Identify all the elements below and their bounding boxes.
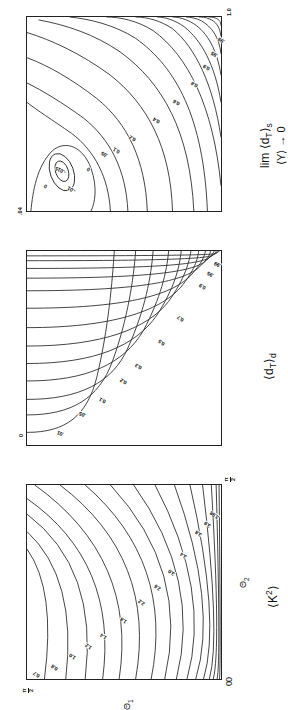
panel-dtau-d-contours (27, 251, 221, 445)
panel-k2-contours (27, 485, 221, 679)
panel-dtau-d-caption: ⟨dT⟩d (262, 353, 278, 380)
panel-dtau-s-caption-line2: ⟨Υ⟩ → 0 (275, 123, 288, 168)
panel-dtau-s-caption: lim ⟨dT⟩s ⟨Υ⟩ → 0 (258, 123, 288, 168)
panel-dtau-s-limit: -.01 -.015 0 0 .05 0.1 0.2 0.4 0.6 0.8 0… (26, 16, 222, 212)
panel-k2-yaxis-label: Θ1 (122, 699, 134, 710)
panel-k2-xtick-max: π2 (224, 477, 236, 482)
panel-k2-ytick-max: π2 (22, 688, 34, 693)
panel-dtau-s-frame (26, 16, 222, 212)
panel-k2-caption: ⟨K2⟩ (264, 585, 280, 608)
panel-dtau-d-xtick-min: 0 (18, 434, 24, 437)
panel-dtau-s-contours (27, 17, 221, 211)
panel-dtau-s-ytick: 1.0 (226, 8, 232, 16)
panel-k2: 0.7 0.8 1.0 1.2 1.4 1.8 2.2 2.6 3.0 3.4 … (26, 484, 222, 680)
panel-k2-frame (26, 484, 222, 680)
panel-k2-xaxis-label: Θ2 (238, 577, 250, 588)
figure-canvas: 0.7 0.8 1.0 1.2 1.4 1.8 2.2 2.6 3.0 3.4 … (0, 0, 281, 700)
panel-dtau-d-frame (26, 250, 222, 446)
panel-dtau-s-xtick: .04 (17, 207, 23, 215)
panel-dtau-d: .01 .05 0.1 0.2 0.3 0.5 0.7 0.9 .95 .99 … (26, 250, 222, 446)
panel-k2-origin-marks: 00 (224, 678, 234, 686)
